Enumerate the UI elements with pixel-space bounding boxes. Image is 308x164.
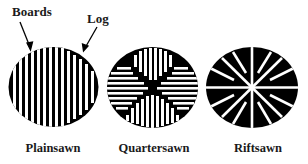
log-arrow-icon <box>83 27 98 51</box>
riftsawn-caption: Riftsawn <box>208 141 308 156</box>
quartersawn-caption: Quartersawn <box>104 141 204 156</box>
boards-arrow-icon <box>20 22 33 50</box>
plainsawn-caption: Plainsawn <box>3 141 103 156</box>
diagram-graphics <box>0 0 308 164</box>
plainsawn-log-icon <box>9 47 99 128</box>
riftsawn-log-icon <box>205 46 299 129</box>
quartersawn-log-icon <box>107 47 198 128</box>
